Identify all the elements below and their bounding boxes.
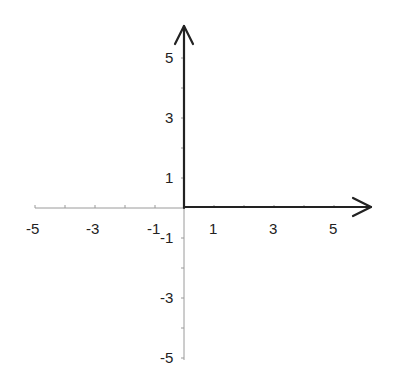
x-label-pos1: 1 <box>209 220 217 237</box>
y-label-pos3: 3 <box>165 109 173 126</box>
y-label-pos1: 1 <box>165 169 173 186</box>
coordinate-plane: -5 -3 -1 1 3 5 5 3 1 -1 -3 -5 <box>0 0 396 380</box>
x-label-pos5: 5 <box>329 220 337 237</box>
x-label-neg3: -3 <box>86 220 99 237</box>
x-label-pos3: 3 <box>269 220 277 237</box>
positive-y-ray <box>175 26 193 208</box>
positive-x-ray <box>184 198 371 216</box>
y-label-neg1: -1 <box>160 229 173 246</box>
y-label-neg5: -5 <box>160 349 173 366</box>
x-label-neg5: -5 <box>26 220 39 237</box>
x-label-neg1: -1 <box>147 220 160 237</box>
y-label-pos5: 5 <box>165 49 173 66</box>
y-label-neg3: -3 <box>160 289 173 306</box>
